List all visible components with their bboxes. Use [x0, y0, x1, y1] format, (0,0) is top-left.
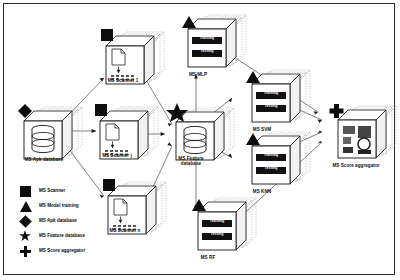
knn-training-label: Training	[254, 153, 288, 158]
mlp-training-label: Training	[190, 36, 224, 41]
knn-testing-label: Testing	[254, 166, 288, 171]
plus-marker-icon	[20, 246, 31, 257]
label-aggregator: MS Score aggregator	[318, 163, 394, 168]
label-scannern: MS Scanner n	[94, 228, 156, 233]
square-marker-icon	[20, 186, 31, 197]
label-apkdb: MS Apk database	[8, 157, 80, 162]
svm-training-label: Training	[254, 91, 288, 96]
svm-testing-label: Testing	[254, 104, 288, 109]
diamond-marker-icon	[20, 216, 31, 227]
legend-label-feature-database: MS Feature database	[39, 233, 85, 238]
label-svm: MS SVM	[238, 127, 286, 132]
legend-label-model-training: MS Model training	[39, 203, 79, 208]
rf-testing-label: Testing	[200, 232, 234, 237]
label-scannerj: MS Scanner j	[86, 153, 148, 158]
mlp-testing-label: Testing	[190, 49, 224, 54]
label-knn: MS KNN	[238, 189, 286, 194]
label-mlp: MS MLP	[174, 72, 222, 77]
legend-label-scanner: MS Scanner	[39, 188, 65, 193]
label-scanner1: MS Scanner 1	[92, 78, 154, 83]
rf-training-label: Training	[200, 219, 234, 224]
legend-label-score-aggregator: MS Score aggregator	[39, 248, 85, 253]
triangle-marker-icon	[20, 201, 31, 212]
label-featdb: MS Feature database	[160, 156, 222, 167]
label-rf: MS RF	[184, 255, 232, 260]
legend-label-apk-database: MS Apk database	[39, 218, 77, 223]
diagram-canvas: MS Scanner 1 MS Scanner j MS Scanner n M…	[0, 0, 400, 280]
